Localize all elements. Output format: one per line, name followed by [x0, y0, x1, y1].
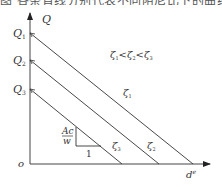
slope-numerator: Ac [61, 126, 74, 136]
origin-label: o [18, 158, 24, 169]
q3-label: Q3 [13, 83, 26, 96]
line-zeta-3 [30, 89, 122, 164]
zeta-1-label: ζ1 [123, 87, 132, 99]
q2-label: Q2 [13, 54, 26, 67]
zeta-2-label: ζ2 [147, 140, 156, 152]
line-zeta-2 [30, 60, 159, 164]
x-axis-label: de [186, 168, 196, 180]
zeta-3-label: ζ3 [112, 140, 121, 152]
y-axis-label: Q [42, 13, 51, 26]
zeta-relation-label: ζ1<ζ2<ζ3 [110, 49, 153, 61]
q1-label: Q1 [13, 27, 26, 40]
slope-denominator: w [63, 136, 71, 146]
slope-run-label: 1 [86, 149, 92, 159]
diagram: Q de o Q1 Q2 Q3 ζ1<ζ2<ζ3 ζ1 ζ2 ζ3 Ac w 1 [0, 0, 222, 187]
